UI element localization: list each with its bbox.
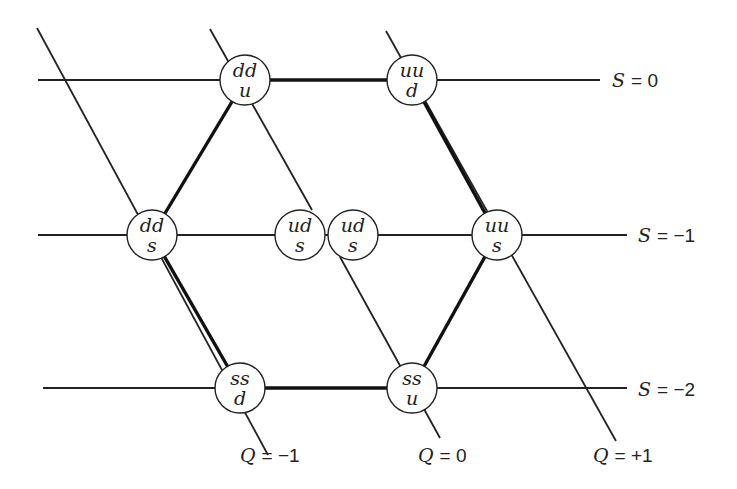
- quark-top: ud: [288, 214, 312, 236]
- edge-uus-uud: [412, 80, 497, 235]
- particle-uud: uud: [387, 55, 437, 105]
- quark-top: dd: [233, 59, 257, 81]
- label-s0: S= 0: [612, 69, 658, 91]
- quark-bottom: u: [239, 79, 251, 101]
- quark-top: uu: [485, 214, 509, 236]
- line-q0-lower: [340, 257, 440, 438]
- particle-ssd: ssd: [215, 363, 265, 413]
- particle-uds1: uds: [275, 210, 325, 260]
- charge-labels: Q= −1 Q= 0 Q= +1: [240, 444, 653, 466]
- label-s-1: S= −1: [638, 224, 695, 246]
- label-q1: Q= +1: [593, 444, 653, 466]
- label-q0: Q= 0: [418, 444, 467, 466]
- quark-top: ss: [230, 367, 250, 389]
- quark-bottom: d: [406, 79, 418, 101]
- quark-bottom: d: [234, 387, 246, 409]
- quark-top: ud: [341, 214, 365, 236]
- quark-bottom: s: [147, 234, 157, 256]
- particle-dds: dds: [127, 210, 177, 260]
- quark-bottom: u: [406, 387, 418, 409]
- quark-top: dd: [140, 214, 164, 236]
- label-s-2: S= −2: [638, 378, 695, 400]
- particle-uus: uus: [472, 210, 522, 260]
- label-q-1: Q= −1: [240, 444, 300, 466]
- particle-ssu: ssu: [387, 363, 437, 413]
- edge-dds-ssd: [152, 235, 240, 388]
- edge-ssu-uus: [412, 235, 497, 388]
- quark-top: ss: [402, 367, 422, 389]
- quark-bottom: s: [295, 234, 305, 256]
- line-q0-upper: [210, 29, 312, 210]
- charge-lines: [37, 28, 616, 455]
- quark-top: uu: [400, 59, 424, 81]
- particle-ddu: ddu: [220, 55, 270, 105]
- edge-ddu-dds: [152, 80, 245, 235]
- quark-bottom: s: [348, 234, 358, 256]
- quark-bottom: s: [492, 234, 502, 256]
- diagram-canvas: dduuudddsudsudsuusssdssu S= 0 S= −1 S= −…: [0, 0, 737, 489]
- particle-uds2: uds: [328, 210, 378, 260]
- particle-nodes: dduuudddsudsudsuusssdssu: [127, 55, 522, 413]
- quark-diagram: dduuudddsudsudsuusssdssu S= 0 S= −1 S= −…: [0, 0, 737, 489]
